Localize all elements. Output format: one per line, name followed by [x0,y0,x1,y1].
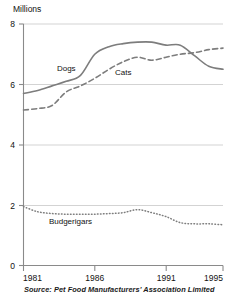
x-tick-marks-group [24,266,224,272]
series-label-dogs: Dogs [57,64,76,73]
y-tick-marks-group [19,24,24,266]
pet-population-chart: Millions 8 6 4 2 0 1981 1986 1991 1995 D… [0,0,244,302]
y-tick-label-6: 6 [10,80,15,90]
x-tick-label-1995: 1995 [204,273,223,283]
source-note: Source: Pet Food Manufacturers' Associat… [24,285,214,294]
series-label-cats: Cats [115,68,131,77]
y-tick-label-2: 2 [10,201,15,211]
gridlines-group [23,24,223,206]
x-tick-label-1991: 1991 [157,273,176,283]
chart-canvas: Millions 8 6 4 2 0 1981 1986 1991 1995 D… [0,0,244,302]
y-tick-label-0: 0 [10,261,15,271]
y-tick-label-8: 8 [10,19,15,29]
series-label-budgerigars: Budgerigars [49,217,92,226]
x-tick-label-1981: 1981 [23,273,42,283]
series-line-cats [24,48,224,110]
y-tick-labels-group: 8 6 4 2 0 [10,19,15,271]
x-tick-labels-group: 1981 1986 1991 1995 [23,273,223,283]
x-tick-label-1986: 1986 [85,273,104,283]
y-tick-label-4: 4 [10,140,15,150]
y-axis-title: Millions [13,4,41,14]
